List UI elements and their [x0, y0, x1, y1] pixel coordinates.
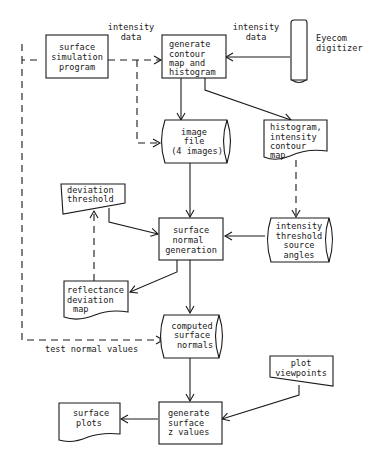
node-deviation-threshold: deviation threshold	[61, 184, 125, 214]
node-plot-viewpoints: plot viewpoints	[270, 356, 333, 386]
edge-sng-to-reflectance	[130, 260, 177, 292]
label-test-normal-values: test normal values	[45, 344, 138, 354]
node-eyecom-digitizer: Eyecom digitizer	[291, 20, 363, 83]
svg-text:Eyecom: Eyecom	[316, 33, 347, 43]
svg-text:z values: z values	[168, 427, 209, 437]
sim-line-1: surface	[59, 42, 95, 52]
svg-text:surface: surface	[73, 408, 109, 418]
label-sim-intensity-data: intensity data	[108, 22, 155, 42]
svg-text:normal: normal	[172, 235, 203, 245]
svg-text:angles: angles	[283, 250, 314, 260]
edge-contour-to-histogram	[205, 78, 291, 120]
svg-text:map: map	[73, 304, 89, 314]
svg-text:generation: generation	[165, 245, 217, 255]
edge-devthresh-to-sng	[109, 208, 158, 234]
svg-text:data: data	[246, 32, 267, 42]
svg-text:viewpoints: viewpoints	[275, 368, 327, 378]
node-computed-surface-normals: computed surface normals	[161, 315, 223, 358]
edge-viewpoints-to-genz	[222, 385, 299, 419]
label-eyecom-intensity-data: intensity data	[233, 22, 280, 42]
svg-text:map: map	[270, 150, 286, 160]
node-intensity-threshold-source-angles: intensity threshold source angles	[268, 218, 333, 262]
svg-text:histogram: histogram	[169, 67, 216, 77]
node-generate-surface-z-values: generate surface z values	[159, 402, 222, 444]
svg-text:reflectance: reflectance	[67, 285, 124, 295]
svg-text:threshold: threshold	[67, 194, 114, 204]
svg-text:intensity: intensity	[108, 22, 155, 32]
svg-text:histogram,: histogram,	[270, 122, 322, 132]
svg-text:generate: generate	[169, 39, 210, 49]
svg-text:digitizer: digitizer	[316, 43, 363, 53]
svg-text:surface: surface	[173, 225, 209, 235]
svg-text:plots: plots	[76, 418, 102, 428]
svg-text:(4 images): (4 images)	[171, 146, 223, 156]
svg-text:normals: normals	[177, 340, 213, 350]
sim-line-3: program	[59, 62, 95, 72]
sim-line-2: simulation	[51, 52, 103, 62]
node-histogram-contour-map: histogram, intensity contour map	[264, 120, 327, 160]
svg-text:intensity: intensity	[233, 22, 280, 32]
edge-sim-to-imagefile	[137, 60, 160, 143]
node-surface-plots: surface plots	[59, 403, 120, 441]
flowchart-canvas: surface simulation program surface simul…	[0, 0, 380, 461]
svg-text:plot: plot	[291, 358, 312, 368]
svg-text:file: file	[184, 136, 205, 146]
node-image-file: image file (4 images)	[162, 120, 231, 163]
svg-text:source: source	[283, 240, 314, 250]
node-reflectance-deviation-map: reflectance deviation map	[64, 281, 128, 319]
svg-text:intensity: intensity	[276, 221, 323, 231]
node-generate-contour-map: generate contour map and histogram	[162, 35, 226, 78]
node-surface-normal-generation: surface normal generation	[159, 218, 223, 260]
svg-text:data: data	[121, 32, 142, 42]
svg-text:generate: generate	[168, 408, 209, 418]
svg-text:surface: surface	[174, 330, 210, 340]
